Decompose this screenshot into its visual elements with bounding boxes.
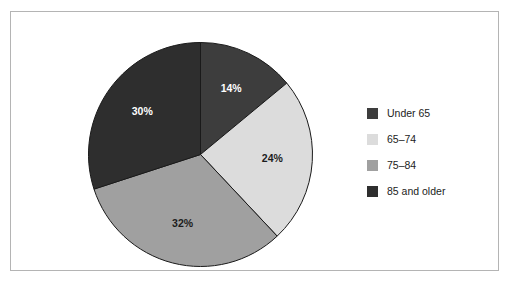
pie-svg: 14%24%32%30%	[78, 32, 323, 277]
pie-chart: 14%24%32%30%	[78, 32, 323, 277]
pie-slice-value-label: 32%	[172, 217, 194, 229]
legend-item-65-74[interactable]: 65–74	[367, 126, 497, 152]
pie-slice-value-label: 14%	[221, 82, 243, 94]
legend-swatch-icon-85-and-older	[367, 186, 378, 197]
legend-swatch-icon-under-65	[367, 108, 378, 119]
legend-item-75-84[interactable]: 75–84	[367, 152, 497, 178]
legend-label-75-84: 75–84	[387, 160, 416, 171]
legend-label-under-65: Under 65	[387, 108, 430, 119]
legend-swatch-icon-65-74	[367, 134, 378, 145]
legend-label-65-74: 65–74	[387, 134, 416, 145]
pie-slice-value-label: 30%	[132, 105, 154, 117]
legend-swatch-icon-75-84	[367, 160, 378, 171]
legend-item-under-65[interactable]: Under 65	[367, 100, 497, 126]
chart-legend: Under 65 65–74 75–84 85 and older	[367, 100, 497, 204]
figure-container: 14%24%32%30% Under 65 65–74 75–84 85 and…	[0, 0, 513, 282]
legend-label-85-and-older: 85 and older	[387, 186, 445, 197]
pie-slice-value-label: 24%	[262, 152, 284, 164]
chart-frame: 14%24%32%30% Under 65 65–74 75–84 85 and…	[10, 11, 499, 271]
legend-item-85-and-older[interactable]: 85 and older	[367, 178, 497, 204]
